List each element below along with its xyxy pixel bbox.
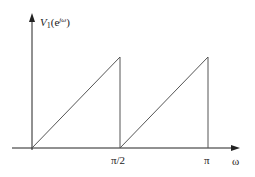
x-axis-arrowhead-icon <box>231 145 240 151</box>
y-axis-arrowhead-icon <box>29 13 35 22</box>
y-axis-label: V1(ejω) <box>40 17 70 30</box>
x-tick-label-pi-over-2: π/2 <box>111 155 125 166</box>
x-tick-label-pi: π <box>204 155 210 166</box>
y-label-main: V <box>40 16 47 28</box>
sawtooth-spectrum-diagram <box>0 0 255 177</box>
y-label-open: (e <box>51 16 60 28</box>
x-axis-label: ω <box>232 156 239 167</box>
y-label-close: ) <box>66 16 70 28</box>
sawtooth-curve <box>32 57 208 148</box>
